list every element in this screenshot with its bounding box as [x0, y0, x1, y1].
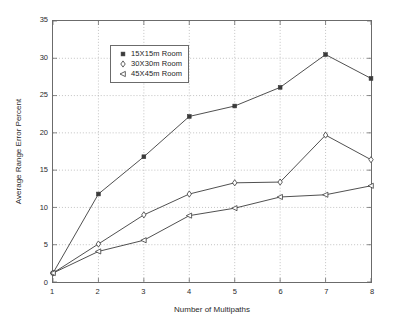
data-series-layer [53, 21, 371, 282]
x-tick-label: 3 [141, 288, 145, 296]
data-point-marker-left-triangle [277, 194, 282, 199]
series-3 [50, 183, 373, 275]
chart-figure: Average Range Error Percent 051015202530… [0, 0, 404, 331]
plot-area: 15X15m Room30X30m Room45X45m Room [52, 20, 372, 283]
data-point-marker-filled-square [97, 192, 101, 196]
x-tick-label: 4 [187, 288, 191, 296]
y-tick-label: 25 [26, 91, 48, 99]
x-tick-label: 7 [324, 288, 328, 296]
y-tick-label: 30 [26, 54, 48, 62]
data-point-marker-filled-square [142, 155, 146, 159]
data-point-marker-left-triangle [323, 192, 328, 197]
data-point-marker-filled-square [187, 115, 191, 119]
data-point-marker-left-triangle [141, 238, 146, 243]
legend-item-1: 15X15m Room [115, 49, 182, 59]
x-tick-label: 5 [233, 288, 237, 296]
data-point-marker-diamond [369, 157, 373, 163]
data-point-marker-filled-square [324, 53, 328, 57]
data-point-marker-diamond [232, 180, 236, 186]
legend-marker-diamond-icon [115, 59, 131, 69]
data-point-marker-left-triangle [368, 183, 373, 188]
x-tick-label: 6 [278, 288, 282, 296]
legend-label: 45X45m Room [131, 69, 182, 79]
legend: 15X15m Room30X30m Room45X45m Room [110, 45, 189, 83]
series-line [53, 55, 371, 273]
data-point-marker-diamond [121, 61, 125, 67]
legend-marker-left-triangle-icon [115, 69, 131, 79]
data-point-marker-left-triangle [232, 206, 237, 211]
y-tick-label: 5 [26, 242, 48, 250]
x-tick-label: 8 [370, 288, 374, 296]
data-point-marker-left-triangle [186, 213, 191, 218]
legend-label: 30X30m Room [131, 59, 182, 69]
data-point-marker-diamond [96, 241, 100, 247]
y-tick-label: 35 [26, 16, 48, 24]
data-point-marker-filled-square [121, 52, 125, 56]
data-point-marker-left-triangle [120, 71, 125, 76]
data-point-marker-filled-square [369, 77, 373, 81]
legend-item-2: 30X30m Room [115, 59, 182, 69]
series-2 [51, 132, 373, 276]
legend-item-3: 45X45m Room [115, 69, 182, 79]
data-point-marker-left-triangle [95, 249, 100, 254]
y-tick-label: 0 [26, 279, 48, 287]
data-point-marker-diamond [142, 212, 146, 218]
x-tick-label: 2 [96, 288, 100, 296]
y-tick-label: 20 [26, 129, 48, 137]
series-line [53, 186, 371, 273]
x-axis-label: Number of Multipaths [52, 305, 372, 314]
x-tick-label: 1 [50, 288, 54, 296]
y-tick-label: 15 [26, 167, 48, 175]
y-tick-label: 10 [26, 204, 48, 212]
legend-marker-filled-square-icon [115, 49, 131, 59]
data-point-marker-filled-square [278, 85, 282, 89]
data-point-marker-filled-square [233, 104, 237, 108]
data-point-marker-diamond [187, 191, 191, 197]
legend-label: 15X15m Room [131, 49, 182, 59]
